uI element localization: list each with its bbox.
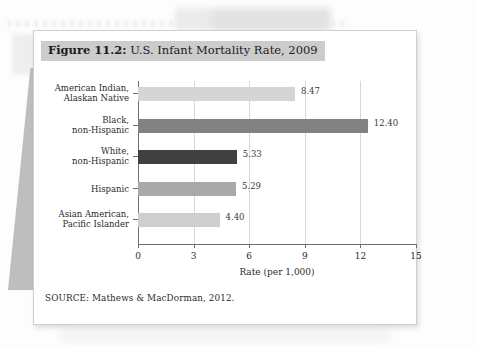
figure-card: Figure 11.2: U.S. Infant Mortality Rate,… [33, 30, 417, 325]
gridline [416, 81, 417, 244]
category-label: Hispanic [9, 184, 129, 194]
bar[interactable] [138, 213, 220, 227]
x-axis-tick-label: 0 [135, 251, 141, 261]
bar[interactable] [138, 150, 237, 164]
background-blurred-block-2 [212, 10, 330, 30]
x-axis-title: Rate (per 1,000) [138, 267, 416, 277]
plot-area: Rate (per 1,000) 036912158.47American In… [138, 81, 416, 244]
bar-row[interactable]: 5.29Hispanic [138, 182, 416, 196]
category-label-line: Black, [9, 115, 129, 125]
figure-number: Figure 11.2: [48, 43, 127, 57]
x-axis-tick [305, 244, 306, 248]
category-label-line: non-Hispanic [9, 125, 129, 135]
bar[interactable] [138, 119, 368, 133]
category-label-line: Asian American, [9, 209, 129, 219]
category-label: White,non-Hispanic [9, 146, 129, 167]
x-axis-tick [138, 244, 139, 248]
category-label-line: Alaskan Native [9, 93, 129, 103]
category-label-line: White, [9, 146, 129, 156]
x-axis-line [138, 244, 416, 245]
x-axis-tick-label: 12 [355, 251, 366, 261]
bar-chart: Rate (per 1,000) 036912158.47American In… [34, 73, 418, 278]
background-faint-block [60, 330, 390, 342]
category-label: American Indian,Alaskan Native [9, 83, 129, 104]
bar-value-label: 4.40 [226, 212, 245, 222]
bar[interactable] [138, 182, 236, 196]
bar-row[interactable]: 12.40Black,non-Hispanic [138, 119, 416, 133]
x-axis-tick-label: 6 [246, 251, 252, 261]
category-label-line: non-Hispanic [9, 156, 129, 166]
figure-title: Figure 11.2: U.S. Infant Mortality Rate,… [41, 41, 325, 61]
bar-row[interactable]: 8.47American Indian,Alaskan Native [138, 87, 416, 101]
bar-row[interactable]: 5.33White,non-Hispanic [138, 150, 416, 164]
x-axis-tick [194, 244, 195, 248]
category-label-line: Hispanic [9, 184, 129, 194]
category-label: Black,non-Hispanic [9, 115, 129, 136]
x-axis-tick-label: 3 [191, 251, 197, 261]
figure-title-text: U.S. Infant Mortality Rate, 2009 [127, 43, 318, 57]
x-axis-tick [360, 244, 361, 248]
source-note: SOURCE: Mathews & MacDorman, 2012. [45, 293, 234, 303]
bar-value-label: 8.47 [301, 86, 320, 96]
x-axis-tick-label: 9 [302, 251, 308, 261]
x-axis-tick [416, 244, 417, 248]
category-label-line: American Indian, [9, 83, 129, 93]
bar-value-label: 5.33 [243, 149, 262, 159]
bar-row[interactable]: 4.40Asian American,Pacific Islander [138, 213, 416, 227]
bar-value-label: 12.40 [374, 118, 398, 128]
category-label: Asian American,Pacific Islander [9, 209, 129, 230]
x-axis-tick-label: 15 [410, 251, 421, 261]
category-label-line: Pacific Islander [9, 219, 129, 229]
bar-value-label: 5.29 [242, 181, 261, 191]
x-axis-tick [249, 244, 250, 248]
bar[interactable] [138, 87, 295, 101]
